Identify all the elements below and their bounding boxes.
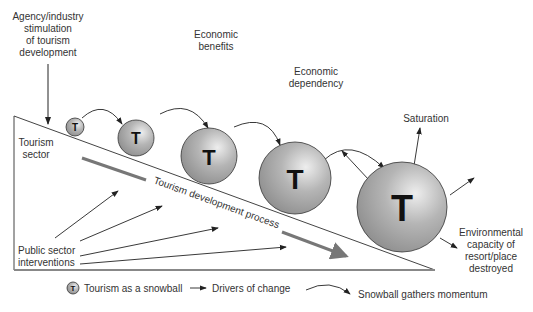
- legend-drivers-label: Drivers of change: [212, 283, 291, 294]
- snowball-diagram: Agency/industry stimulation of tourism d…: [0, 0, 533, 312]
- legend-momentum-curve-icon: [306, 285, 350, 294]
- svg-text:T: T: [286, 164, 303, 195]
- legend-snowball-icon: T: [67, 282, 79, 294]
- process-arrow-head: [282, 232, 346, 256]
- legend-momentum-label: Snowball gathers momentum: [358, 289, 488, 300]
- saturation-label: Saturation: [403, 113, 449, 124]
- public-sector-arrows: [55, 191, 286, 264]
- svg-text:development: development: [19, 47, 76, 58]
- snowball-1: T: [66, 118, 84, 136]
- svg-text:benefits: benefits: [198, 41, 233, 52]
- snowball-4: T: [259, 142, 331, 214]
- snowball-5: T: [357, 162, 447, 252]
- economic-benefits-label: Economic: [194, 29, 238, 40]
- svg-text:T: T: [131, 130, 141, 147]
- svg-text:T: T: [71, 284, 76, 293]
- svg-text:dependency: dependency: [289, 78, 344, 89]
- tourism-sector-label: Tourism: [18, 137, 53, 148]
- legend: T Tourism as a snowball Drivers of chang…: [67, 282, 488, 300]
- environmental-label: Environmental capacity of resort/place d…: [459, 227, 523, 274]
- svg-text:T: T: [72, 122, 78, 133]
- svg-text:T: T: [391, 188, 413, 229]
- svg-text:T: T: [202, 145, 216, 170]
- svg-text:sector: sector: [22, 149, 50, 160]
- svg-text:interventions: interventions: [18, 257, 75, 268]
- snowball-2: T: [118, 120, 154, 156]
- agency-label: Agency/industry stimulation of tourism d…: [12, 11, 83, 58]
- svg-text:Agency/industry: Agency/industry: [12, 11, 83, 22]
- economic-dependency-label: Economic: [294, 66, 338, 77]
- public-sector-label: Public sector: [18, 245, 76, 256]
- svg-text:resort/place: resort/place: [465, 251, 518, 262]
- svg-text:of tourism: of tourism: [26, 35, 70, 46]
- svg-text:stimulation: stimulation: [24, 23, 72, 34]
- legend-snowball-label: Tourism as a snowball: [84, 283, 182, 294]
- svg-text:Environmental: Environmental: [459, 227, 523, 238]
- svg-text:destroyed: destroyed: [469, 263, 513, 274]
- svg-text:capacity of: capacity of: [467, 239, 515, 250]
- snowball-3: T: [181, 128, 237, 184]
